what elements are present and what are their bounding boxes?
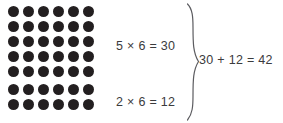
dot-row: [8, 84, 94, 99]
dot-counter: [68, 21, 79, 32]
dot-counter: [38, 99, 49, 110]
equation-top-array: 5 × 6 = 30: [116, 39, 175, 53]
dot-counter: [53, 6, 64, 17]
dot-row: [8, 99, 94, 110]
dot-row: [8, 66, 94, 77]
multiplication-array-diagram: 5 × 6 = 30 2 × 6 = 12 30 + 12 = 42: [0, 0, 283, 123]
dot-array-top: [8, 6, 94, 77]
dot-counter: [83, 21, 94, 32]
dot-counter: [38, 66, 49, 77]
dot-counter: [23, 36, 34, 47]
equation-bottom-array: 2 × 6 = 12: [116, 95, 175, 109]
dot-counter: [8, 84, 19, 95]
dot-counter: [23, 99, 34, 110]
dot-counter: [38, 36, 49, 47]
dot-row: [8, 21, 94, 36]
dot-counter: [23, 21, 34, 32]
dot-row: [8, 36, 94, 51]
dot-counter: [8, 6, 19, 17]
dot-row: [8, 51, 94, 66]
dot-counter: [38, 6, 49, 17]
dot-counter: [8, 36, 19, 47]
dot-counter: [23, 6, 34, 17]
dot-counter: [83, 51, 94, 62]
dot-counter: [68, 36, 79, 47]
dot-counter: [53, 36, 64, 47]
dot-row: [8, 6, 94, 21]
dot-counter: [38, 51, 49, 62]
dot-counter: [53, 51, 64, 62]
dot-array-bottom: [8, 84, 94, 110]
dot-counter: [83, 6, 94, 17]
dot-counter: [38, 84, 49, 95]
dot-counter: [83, 99, 94, 110]
dot-counter: [8, 51, 19, 62]
dot-counter: [38, 21, 49, 32]
dot-counter: [23, 84, 34, 95]
dot-counter: [53, 21, 64, 32]
dot-counter: [23, 51, 34, 62]
dot-counter: [83, 36, 94, 47]
dot-counter: [8, 21, 19, 32]
dot-counter: [53, 84, 64, 95]
dot-counter: [68, 6, 79, 17]
dot-counter: [68, 66, 79, 77]
dot-counter: [8, 66, 19, 77]
dot-counter: [83, 66, 94, 77]
dot-counter: [68, 84, 79, 95]
dot-counter: [83, 84, 94, 95]
dot-counter: [8, 99, 19, 110]
dot-counter: [68, 51, 79, 62]
dot-counter: [53, 66, 64, 77]
dot-counter: [23, 66, 34, 77]
dot-counter: [68, 99, 79, 110]
dot-counter: [53, 99, 64, 110]
equation-sum-total: 30 + 12 = 42: [199, 53, 273, 67]
